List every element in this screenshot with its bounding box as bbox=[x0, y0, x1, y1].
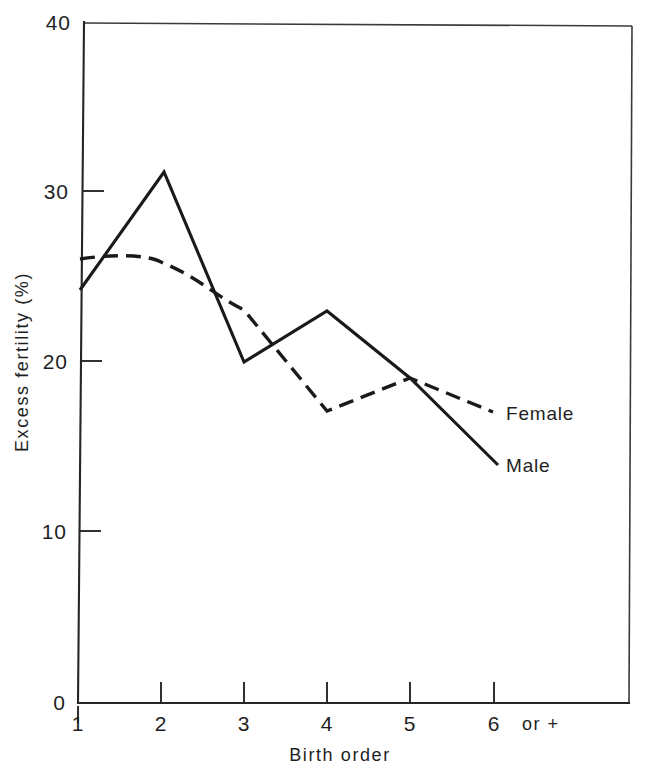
x-axis-title: Birth order bbox=[289, 745, 391, 765]
figure-container: 40 30 20 10 0 1 2 3 4 5 6 or + Birth ord… bbox=[0, 0, 647, 779]
frame-right bbox=[629, 26, 632, 703]
y-tick-label-0: 0 bbox=[53, 691, 66, 714]
x-tick-label-6: 6 bbox=[488, 712, 501, 735]
y-axis-title: Excess fertility (%) bbox=[12, 272, 32, 452]
y-tick-label-40: 40 bbox=[46, 11, 71, 34]
x-tick-label-2: 2 bbox=[155, 712, 168, 735]
series-label-female: Female bbox=[506, 403, 574, 424]
x-tick-label-5: 5 bbox=[404, 712, 417, 735]
x-tick-label-3: 3 bbox=[238, 712, 251, 735]
y-tick-label-10: 10 bbox=[42, 520, 67, 543]
frame-top bbox=[84, 23, 632, 26]
series-line-female bbox=[80, 256, 493, 412]
series-label-male: Male bbox=[506, 455, 550, 476]
series-line-male bbox=[80, 172, 498, 465]
y-tick-label-20: 20 bbox=[43, 350, 68, 373]
x-tick-suffix-or-plus: or + bbox=[522, 714, 560, 734]
line-chart: 40 30 20 10 0 1 2 3 4 5 6 or + Birth ord… bbox=[0, 0, 647, 779]
x-tick-label-1: 1 bbox=[72, 712, 85, 735]
y-tick-label-30: 30 bbox=[44, 180, 69, 203]
y-axis-line bbox=[78, 22, 84, 703]
x-tick-label-4: 4 bbox=[321, 712, 334, 735]
